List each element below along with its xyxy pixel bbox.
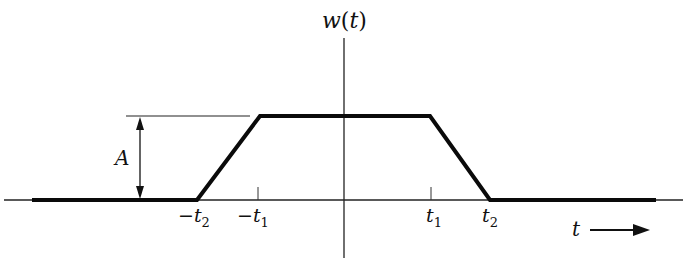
y-axis-label: w(t) (322, 8, 367, 33)
dimension-arrowhead-down (136, 186, 144, 199)
amplitude-label: A (113, 146, 129, 170)
x-axis-label: t (572, 217, 581, 241)
tick-label-t1: t1 (426, 204, 442, 230)
trapezoid-diagram: w(t) A −t2 −t1 t1 t2 t (0, 0, 686, 267)
time-arrowhead-icon (633, 224, 650, 236)
dimension-arrowhead-up (136, 117, 144, 130)
tick-label-neg-t1: −t1 (237, 204, 269, 230)
tick-label-t2: t2 (482, 204, 498, 230)
tick-label-neg-t2: −t2 (178, 204, 210, 230)
